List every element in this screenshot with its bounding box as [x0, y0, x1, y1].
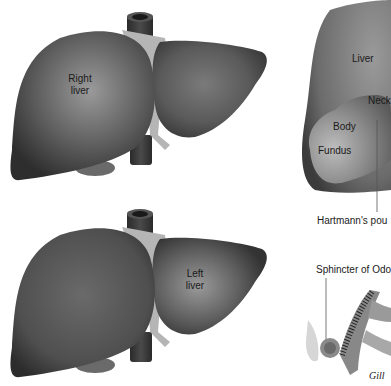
label-right-liver: Right liver [62, 73, 98, 97]
artist-signature: Gill [369, 370, 385, 382]
label-gb-fundus: Fundus [318, 145, 351, 157]
label-gb-neck: Neck [368, 95, 391, 107]
label-hartmanns-pouch: Hartmann's pou [317, 215, 387, 227]
label-left-liver: Left liver [177, 268, 213, 292]
sphincter-diagram [306, 278, 391, 375]
anatomy-illustration [0, 0, 391, 386]
liver-bottom-diagram [10, 209, 266, 377]
label-gb-liver: Liver [352, 53, 374, 65]
liver-top-diagram [10, 12, 266, 180]
label-gb-body: Body [333, 121, 356, 133]
label-sphincter-of-oddi: Sphincter of Odo [316, 264, 391, 276]
